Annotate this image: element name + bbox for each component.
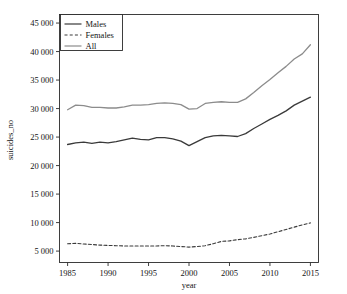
x-tick-label: 2010 [261,268,278,278]
y-tick-labels: 5 00010 00015 00020 00025 00030 00035 00… [30,18,53,256]
chart-legend: MalesFemalesAll [61,15,123,52]
y-tick-label: 20 000 [30,161,53,171]
y-tick-label: 10 000 [30,218,53,228]
line-chart: 5 00010 00015 00020 00025 00030 00035 00… [0,0,347,294]
plot-frame [60,15,319,263]
y-tick-label: 30 000 [30,104,53,114]
x-tick-label: 2015 [302,268,319,278]
axis-ticks [56,23,310,266]
x-tick-label: 1990 [100,268,117,278]
x-axis-title: year [182,280,197,290]
legend-label-females: Females [86,30,114,40]
x-tick-labels: 1985199019952000200520102015 [59,268,319,278]
legend-label-males: Males [86,19,107,29]
series-line-females [68,223,311,247]
x-tick-label: 1985 [59,268,76,278]
series-line-all [68,45,311,110]
y-axis-title: suicides_no [5,120,15,160]
series-line-males [68,97,311,145]
y-tick-label: 15 000 [30,189,53,199]
y-tick-label: 5 000 [34,246,53,256]
x-tick-label: 2000 [181,268,198,278]
y-tick-label: 40 000 [30,47,53,57]
y-tick-label: 35 000 [30,75,53,85]
chart-figure: 5 00010 00015 00020 00025 00030 00035 00… [0,0,347,294]
y-tick-label: 45 000 [30,18,53,28]
x-tick-label: 2005 [221,268,238,278]
legend-label-all: All [86,41,98,51]
data-series [68,45,311,247]
x-tick-label: 1995 [140,268,157,278]
y-tick-label: 25 000 [30,132,53,142]
